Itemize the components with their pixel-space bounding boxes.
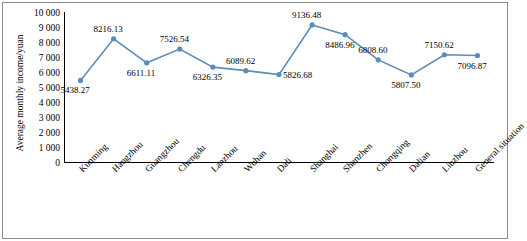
data-point-label: 6326.35 <box>193 72 222 82</box>
data-point <box>409 72 414 77</box>
plot-area: 5438.278216.136611.117526.546326.356089.… <box>64 12 494 162</box>
data-point-label: 7150.62 <box>424 40 453 50</box>
y-tick-7000: 7 000 <box>14 53 60 63</box>
data-point <box>276 72 281 77</box>
data-point-label: 6089.62 <box>226 56 255 66</box>
data-point <box>442 52 447 57</box>
data-point-label: 9136.48 <box>292 10 321 20</box>
data-point <box>177 47 182 52</box>
y-tick-8000: 8 000 <box>14 38 60 48</box>
data-point-label: 8486.96 <box>325 40 354 50</box>
y-tick-2000: 2 000 <box>14 128 60 138</box>
data-point <box>343 32 348 37</box>
y-tick-4000: 4 000 <box>14 98 60 108</box>
data-point-label: 5438.27 <box>61 85 90 95</box>
y-tick-10000: 10 000 <box>14 8 60 18</box>
data-point <box>78 78 83 83</box>
y-tick-3000: 3 000 <box>14 113 60 123</box>
y-tick-0: 0 <box>14 158 60 168</box>
data-point-label: 5826.68 <box>283 70 312 80</box>
data-point-label: 8216.13 <box>94 24 123 34</box>
data-point-label: 6611.11 <box>127 68 156 78</box>
y-tick-1000: 1 000 <box>14 143 60 153</box>
y-axis-ticks: 10 000 9 000 8 000 7 000 6 000 5 000 4 0… <box>14 0 60 241</box>
data-point <box>210 65 215 70</box>
data-point-label: 7096.87 <box>457 61 486 71</box>
data-point <box>475 53 480 58</box>
data-point <box>243 68 248 73</box>
data-point <box>376 57 381 62</box>
data-point-label: 7526.54 <box>160 34 189 44</box>
data-point <box>144 60 149 65</box>
data-point-label: 6808.60 <box>358 45 387 55</box>
data-point-label: 5807.50 <box>391 80 420 90</box>
data-point <box>309 22 314 27</box>
line-series <box>64 12 494 162</box>
y-tick-9000: 9 000 <box>14 23 60 33</box>
y-tick-5000: 5 000 <box>14 83 60 93</box>
y-tick-6000: 6 000 <box>14 68 60 78</box>
data-point <box>111 36 116 41</box>
